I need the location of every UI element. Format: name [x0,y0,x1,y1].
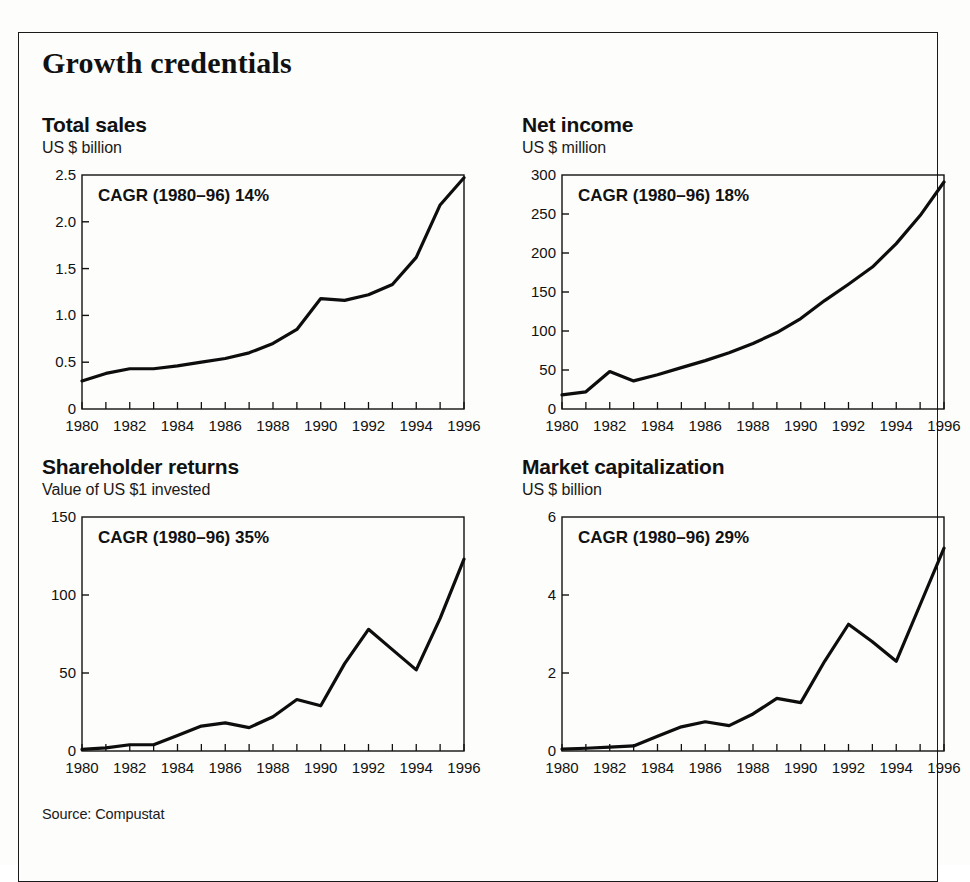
x-tick-label: 1992 [352,417,385,434]
y-tick-label: 150 [51,508,76,525]
cagr-annotation: CAGR (1980–96) 29% [578,528,749,547]
chart-title-shareholder-returns: Shareholder returns [42,455,239,479]
y-tick-label: 2.5 [55,166,76,183]
x-tick-label: 1986 [209,759,242,776]
x-tick-label: 1988 [256,417,289,434]
x-tick-label: 1992 [352,759,385,776]
x-tick-label: 1994 [400,759,433,776]
x-tick-label: 1982 [593,759,626,776]
chart-svg: 00.51.01.52.02.5198019821984198619881990… [42,163,482,443]
x-tick-label: 1996 [447,417,480,434]
x-tick-label: 1996 [927,759,960,776]
y-tick-label: 0 [68,742,76,759]
cagr-annotation: CAGR (1980–96) 35% [98,528,269,547]
chart-subtitle-market-capitalization: US $ billion [522,481,602,499]
data-series-line [82,559,464,749]
plot-frame [82,175,464,409]
y-tick-label: 0.5 [55,353,76,370]
x-tick-label: 1996 [447,759,480,776]
x-tick-label: 1988 [256,759,289,776]
x-tick-label: 1984 [161,417,194,434]
y-tick-label: 300 [531,166,556,183]
x-tick-label: 1994 [880,417,913,434]
chart-panel-net-income: Net income US $ million 0501001502002503… [522,113,962,443]
x-tick-label: 1980 [65,417,98,434]
data-series-line [562,548,944,749]
plot-area-total-sales: 00.51.01.52.02.5198019821984198619881990… [42,163,482,443]
data-series-line [82,178,464,381]
x-tick-label: 1980 [545,417,578,434]
x-tick-label: 1992 [832,417,865,434]
x-tick-label: 1990 [784,417,817,434]
chart-svg: 0501001502002503001980198219841986198819… [522,163,962,443]
chart-svg: 0501001501980198219841986198819901992199… [42,505,482,785]
x-tick-label: 1986 [689,759,722,776]
chart-panel-total-sales: Total sales US $ billion 00.51.01.52.02.… [42,113,482,443]
x-tick-label: 1988 [736,759,769,776]
plot-area-market-capitalization: 0246198019821984198619881990199219941996… [522,505,962,785]
x-tick-label: 1990 [304,759,337,776]
y-tick-label: 1.0 [55,306,76,323]
x-tick-label: 1982 [593,417,626,434]
chart-title-market-capitalization: Market capitalization [522,455,724,479]
y-tick-label: 2 [548,664,556,681]
y-tick-label: 50 [539,361,556,378]
chart-subtitle-shareholder-returns: Value of US $1 invested [42,481,210,499]
x-tick-label: 1980 [65,759,98,776]
source-note: Source: Compustat [42,806,164,822]
y-tick-label: 6 [548,508,556,525]
data-series-line [562,182,944,395]
y-tick-label: 4 [548,586,556,603]
x-tick-label: 1986 [689,417,722,434]
x-tick-label: 1984 [641,417,674,434]
x-tick-label: 1980 [545,759,578,776]
y-tick-label: 2.0 [55,213,76,230]
y-tick-label: 200 [531,244,556,261]
y-tick-label: 0 [548,400,556,417]
cagr-annotation: CAGR (1980–96) 18% [578,186,749,205]
x-tick-label: 1994 [400,417,433,434]
y-tick-label: 1.5 [55,260,76,277]
y-tick-label: 150 [531,283,556,300]
x-tick-label: 1984 [641,759,674,776]
chart-subtitle-total-sales: US $ billion [42,139,122,157]
chart-panel-shareholder-returns: Shareholder returns Value of US $1 inves… [42,455,482,785]
x-tick-label: 1994 [880,759,913,776]
cagr-annotation: CAGR (1980–96) 14% [98,186,269,205]
chart-panel-market-capitalization: Market capitalization US $ billion 02461… [522,455,962,785]
y-tick-label: 100 [531,322,556,339]
x-tick-label: 1996 [927,417,960,434]
x-tick-label: 1986 [209,417,242,434]
chart-title-total-sales: Total sales [42,113,147,137]
x-tick-label: 1990 [784,759,817,776]
chart-svg: 0246198019821984198619881990199219941996… [522,505,962,785]
y-tick-label: 250 [531,205,556,222]
x-tick-label: 1988 [736,417,769,434]
y-tick-label: 50 [59,664,76,681]
y-tick-label: 0 [548,742,556,759]
chart-subtitle-net-income: US $ million [522,139,606,157]
y-tick-label: 0 [68,400,76,417]
plot-area-net-income: 0501001502002503001980198219841986198819… [522,163,962,443]
x-tick-label: 1992 [832,759,865,776]
x-tick-label: 1982 [113,417,146,434]
x-tick-label: 1982 [113,759,146,776]
x-tick-label: 1984 [161,759,194,776]
chart-title-net-income: Net income [522,113,633,137]
x-tick-label: 1990 [304,417,337,434]
plot-frame [562,517,944,751]
page-title: Growth credentials [42,46,292,80]
y-tick-label: 100 [51,586,76,603]
plot-area-shareholder-returns: 0501001501980198219841986198819901992199… [42,505,482,785]
